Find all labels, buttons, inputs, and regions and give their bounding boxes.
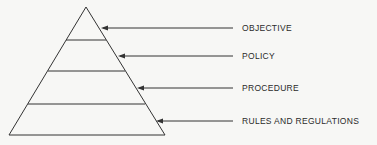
arrowhead-icon (118, 54, 125, 59)
arrowhead-icon (137, 86, 144, 91)
pyramid-diagram: OBJECTIVE POLICY PROCEDURE RULES AND REG… (0, 0, 377, 145)
arrowhead-icon (101, 26, 108, 31)
label-policy: POLICY (242, 51, 275, 61)
label-procedure: PROCEDURE (242, 83, 299, 93)
label-objective: OBJECTIVE (242, 23, 292, 33)
label-rules-and-regulations: RULES AND REGULATIONS (242, 116, 359, 126)
